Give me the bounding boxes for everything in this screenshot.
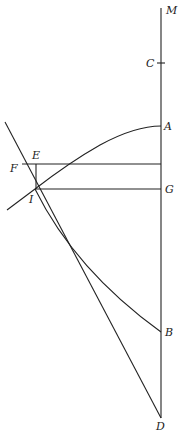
label-b: B xyxy=(164,326,173,339)
geometry-figure: M C A E F G I B D xyxy=(0,0,180,436)
label-d: D xyxy=(155,420,165,433)
label-m: M xyxy=(165,4,178,17)
label-i: I xyxy=(28,193,34,206)
label-a: A xyxy=(163,120,172,133)
label-f: F xyxy=(9,162,18,175)
line-tangent-d xyxy=(5,122,161,418)
label-g: G xyxy=(165,183,174,196)
label-e: E xyxy=(31,149,40,162)
label-c: C xyxy=(146,57,155,70)
curve-ib xyxy=(35,189,161,332)
diagram-canvas: M C A E F G I B D xyxy=(0,0,180,436)
